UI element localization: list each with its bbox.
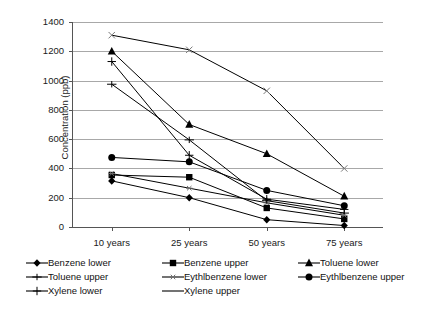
x-tick-label: 10 years: [77, 237, 147, 248]
legend-item[interactable]: Xylene lower: [26, 284, 162, 298]
data-point-circle: [306, 274, 313, 281]
legend-label: Eythlbenzene lower: [184, 271, 267, 283]
series-line: [112, 181, 345, 226]
legend-label: Benzene lower: [48, 257, 111, 269]
chart-figure: Concentration (ppb) 02004006008001000120…: [0, 0, 442, 313]
data-point-square: [264, 205, 270, 211]
data-point-circle: [108, 154, 115, 161]
data-point-triangle: [340, 192, 348, 200]
legend-item[interactable]: Toluene upper: [26, 270, 162, 284]
data-point-asterisk: [170, 275, 176, 279]
y-tick-label: 400: [30, 163, 64, 173]
legend-marker-asterisk: [162, 271, 184, 283]
chart-legend: Benzene lowerBenzene upperToluene lowerT…: [26, 256, 436, 298]
y-tick-label: 1200: [30, 46, 64, 56]
legend-marker-diamond: [26, 257, 48, 269]
data-point-triangle: [305, 259, 313, 267]
legend-row: Xylene lowerXylene upper: [26, 284, 436, 298]
legend-label: Benzene upper: [184, 257, 248, 269]
series-line: [112, 157, 345, 205]
data-point-square: [109, 172, 115, 178]
legend-item[interactable]: Eythlbenzene lower: [162, 270, 298, 284]
legend-marker-x-cross-plain: [162, 285, 184, 297]
y-axis-title-wrapper: Concentration (ppb): [10, 52, 24, 192]
plot-area: 0200400600800100012001400 10 years25 yea…: [72, 22, 383, 228]
legend-marker-plus: [26, 285, 48, 297]
data-point-cross-bar: [32, 274, 41, 280]
legend-label: Toluene upper: [48, 271, 108, 283]
data-point-x-cross: [264, 88, 270, 94]
data-point-circle: [263, 187, 270, 194]
data-point-diamond: [341, 222, 348, 230]
legend-label: Eythlbenzene upper: [320, 271, 405, 283]
data-point-plus: [33, 287, 41, 295]
legend-row: Benzene lowerBenzene upperToluene lower: [26, 256, 436, 270]
legend-row: Toluene upperEythlbenzene lowerEythlbenz…: [26, 270, 436, 284]
series-layer: [73, 22, 403, 237]
data-point-diamond: [33, 259, 40, 267]
data-point-square: [186, 174, 192, 180]
data-point-asterisk: [186, 186, 192, 190]
legend-marker-triangle: [298, 257, 320, 269]
legend-label: Toluene lower: [320, 257, 379, 269]
y-tick-label: 0: [30, 222, 64, 232]
legend-item[interactable]: Benzene upper: [162, 256, 298, 270]
x-tick-label: 25 years: [154, 237, 224, 248]
x-tick-label: 50 years: [232, 237, 302, 248]
y-tick-label: 800: [30, 105, 64, 115]
data-point-diamond: [186, 194, 193, 202]
legend-marker-cross-bar: [26, 271, 48, 283]
y-tick-label: 1000: [30, 76, 64, 86]
y-tick-label: 600: [30, 134, 64, 144]
data-point-triangle: [108, 47, 116, 55]
legend-item[interactable]: Benzene lower: [26, 256, 162, 270]
legend-label: Xylene lower: [48, 285, 102, 297]
data-point-square: [341, 216, 347, 222]
legend-item[interactable]: Eythlbenzene upper: [298, 270, 434, 284]
legend-item[interactable]: Xylene upper: [162, 284, 298, 298]
legend-item[interactable]: Toluene lower: [298, 256, 434, 270]
y-tick-label: 200: [30, 193, 64, 203]
legend-label: Xylene upper: [184, 285, 240, 297]
y-tick-label: 1400: [30, 17, 64, 27]
series-line: [112, 51, 345, 196]
legend-marker-circle: [298, 271, 320, 283]
series-line: [112, 35, 345, 168]
data-point-diamond: [263, 216, 270, 224]
x-tick-label: 75 years: [309, 237, 379, 248]
legend-marker-square: [162, 257, 184, 269]
series-line: [112, 175, 345, 219]
data-point-square: [170, 260, 176, 266]
data-point-x-cross: [341, 165, 347, 171]
